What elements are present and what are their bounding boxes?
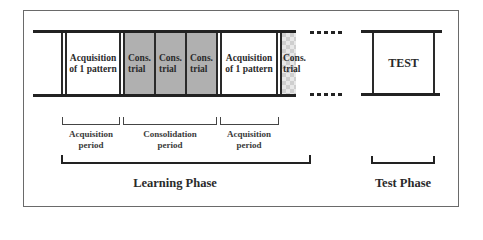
acquisition-cell-2: Acquisitionof 1 pattern [222, 33, 276, 94]
cell-label: Cons. [283, 53, 306, 63]
divider-line [61, 33, 63, 94]
bottom-rail [33, 94, 296, 97]
consolidation-trial-cell-2: Cons.trial [154, 33, 185, 94]
test-bottom-rail [361, 93, 440, 96]
cell-label: trial [128, 64, 145, 74]
cell-label: Acquisition [226, 53, 272, 63]
cell-label: of 1 pattern [69, 64, 117, 74]
cell-label: Acquisition [70, 53, 116, 63]
cell-label: trial [159, 64, 176, 74]
divider-line [216, 33, 218, 94]
learning-phase-label: Learning Phase [100, 176, 250, 191]
period-label: Acquisition [227, 129, 271, 139]
divider-line [119, 33, 121, 94]
consolidation-trial-cell-partial: Cons.trial [282, 33, 296, 94]
period-label: period [78, 140, 103, 150]
acquisition-period-label-1: Acquisitionperiod [55, 129, 127, 151]
acquisition-period-bracket-1 [62, 117, 120, 125]
test-label: TEST [388, 58, 419, 69]
period-label: Consolidation [143, 129, 197, 139]
cell-label: Cons. [128, 53, 151, 63]
consolidation-trial-cell-1: Cons.trial [123, 33, 154, 94]
acquisition-period-bracket-2 [220, 117, 279, 125]
consolidation-period-label: Consolidationperiod [120, 129, 220, 151]
acquisition-cell-1: Acquisitionof 1 pattern [67, 33, 119, 94]
cell-label: of 1 pattern [225, 64, 273, 74]
test-box: TEST [374, 33, 433, 93]
cell-label: Cons. [190, 53, 213, 63]
test-phase-label: Test Phase [353, 176, 453, 191]
divider-line [276, 33, 278, 94]
learning-phase-bracket [61, 155, 311, 164]
consolidation-trial-cell-3: Cons.trial [185, 33, 216, 94]
test-phase-bracket [371, 156, 435, 164]
consolidation-period-bracket [123, 117, 217, 125]
period-label: Acquisition [69, 129, 113, 139]
period-label: period [157, 140, 182, 150]
continuation-dots-top [310, 31, 345, 34]
period-label: period [236, 140, 261, 150]
cell-label: trial [283, 64, 300, 74]
test-right-line [433, 33, 435, 93]
continuation-dots-bottom [310, 93, 345, 96]
acquisition-period-label-2: Acquisitionperiod [213, 129, 285, 151]
cell-label: trial [190, 64, 207, 74]
cell-label: Cons. [159, 53, 182, 63]
